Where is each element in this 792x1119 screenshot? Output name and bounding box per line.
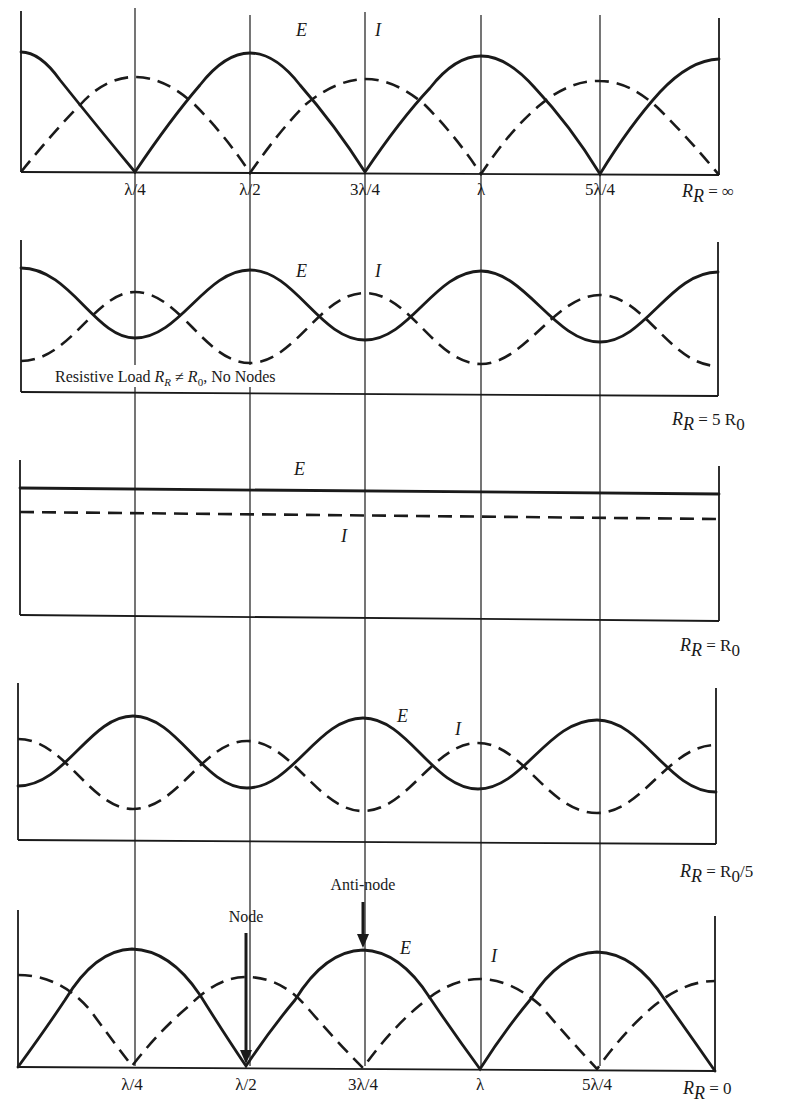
- panel-low-resistance: E I RR = R0/5: [18, 683, 753, 886]
- voltage-label: E: [295, 20, 307, 40]
- antinode-label: Anti-node: [331, 876, 396, 893]
- tick-label-one: λ: [476, 1075, 485, 1094]
- voltage-label: E: [396, 706, 408, 726]
- condition-label-high: RR = 5 R0: [671, 409, 745, 434]
- node-label: Node: [229, 908, 264, 925]
- panel-high-resistance: E I Resistive Load RR ≠ R0, No Nodes RR …: [21, 240, 745, 434]
- panel-short-circuit: Node Anti-node E I λ/4 λ/2 3λ/4 λ 5λ/4 R…: [18, 876, 732, 1103]
- tick-label-three-quarter: 3λ/4: [350, 180, 380, 199]
- voltage-curve: [21, 268, 718, 342]
- condition-label-matched: RR = R0: [679, 635, 740, 660]
- condition-label-open: RR = ∞: [681, 181, 734, 206]
- tick-label-quarter: λ/4: [124, 180, 146, 199]
- current-label: I: [454, 719, 462, 739]
- condition-label-short: RR = 0: [682, 1078, 732, 1103]
- current-label: I: [374, 261, 382, 281]
- tick-label-five-quarter: 5λ/4: [585, 180, 615, 199]
- tick-label-quarter: λ/4: [121, 1075, 143, 1094]
- panel-matched: E I RR = R0: [20, 459, 740, 660]
- current-curve: [21, 292, 718, 366]
- tick-label-one: λ: [477, 180, 486, 199]
- antinode-arrowhead-icon: [357, 934, 369, 948]
- standing-wave-figure: E I λ/4 λ/2 3λ/4 λ 5λ/4 RR = ∞ E I Resis…: [0, 0, 792, 1119]
- tick-label-half: λ/2: [235, 1075, 256, 1094]
- voltage-curve: [21, 52, 719, 174]
- panel-open-circuit: E I λ/4 λ/2 3λ/4 λ 5λ/4 RR = ∞: [21, 11, 734, 206]
- current-curve: [18, 975, 715, 1069]
- current-label: I: [374, 20, 382, 40]
- tick-label-three-quarter: 3λ/4: [348, 1075, 378, 1094]
- current-label: I: [490, 946, 498, 966]
- voltage-curve: [20, 488, 719, 494]
- current-label: I: [340, 526, 348, 546]
- current-curve: [20, 512, 719, 519]
- tick-label-five-quarter: 5λ/4: [582, 1075, 612, 1094]
- voltage-label: E: [293, 459, 305, 479]
- voltage-curve: [18, 716, 716, 792]
- condition-label-low: RR = R0/5: [679, 861, 753, 886]
- current-curve: [18, 739, 716, 813]
- voltage-label: E: [399, 938, 411, 958]
- tick-label-half: λ/2: [239, 180, 260, 199]
- voltage-label: E: [295, 261, 307, 281]
